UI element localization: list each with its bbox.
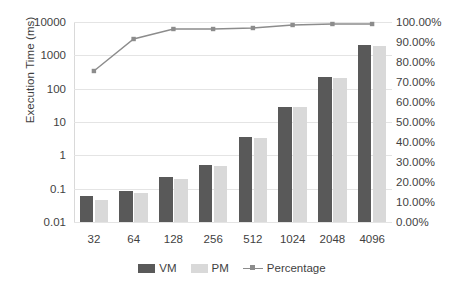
y-axis-right-tick-label: 30.00% [396,156,435,168]
legend-item-vm[interactable]: VM [138,262,176,274]
x-axis-label-64: 64 [114,232,154,246]
legend-swatch-icon [191,264,208,273]
percentage-marker-128 [171,27,175,31]
x-axis-category-labels: 3264128256512102420484096 [74,232,392,248]
percentage-marker-512 [251,26,255,30]
percentage-marker-4096 [370,22,374,26]
percentage-marker-2048 [330,22,334,26]
gridline [74,222,392,223]
plot-area [74,22,392,222]
chart-container: Execution Time (ms) 1000010001001010.10.… [0,0,464,289]
x-axis-label-32: 32 [74,232,114,246]
legend-swatch-icon [138,264,155,273]
y-axis-right-tick-label: 50.00% [396,116,435,128]
y-axis-right-tick-label: 20.00% [396,176,435,188]
percentage-line-series [74,22,392,222]
y-axis-right-tick-label: 40.00% [396,136,435,148]
percentage-line-path [94,24,372,71]
x-axis-label-256: 256 [193,232,233,246]
legend-label: PM [212,262,229,274]
percentage-marker-1024 [290,23,294,27]
legend-item-percentage[interactable]: Percentage [243,262,326,274]
y-axis-left-tick-label: 100 [0,83,66,95]
legend-line-marker-icon [243,264,263,273]
percentage-marker-64 [131,37,135,41]
y-axis-right-tick-label: 80.00% [396,56,435,68]
y-axis-left-tick-label: 10 [0,116,66,128]
y-axis-right-tick-label: 0.00% [396,216,429,228]
y-axis-left-tick-label: 1 [0,149,66,161]
chart-legend: VMPMPercentage [0,258,464,278]
y-axis-left-tick-label: 10000 [0,16,66,28]
y-axis-left-tick-label: 0.1 [0,183,66,195]
x-axis-label-4096: 4096 [352,232,392,246]
legend-label: Percentage [267,262,326,274]
y-axis-right-tick-label: 90.00% [396,36,435,48]
x-axis-label-2048: 2048 [313,232,353,246]
y-axis-right-tick-label: 70.00% [396,76,435,88]
legend-item-pm[interactable]: PM [191,262,229,274]
x-axis-label-1024: 1024 [273,232,313,246]
percentage-marker-32 [92,69,96,73]
x-axis-label-128: 128 [154,232,194,246]
y-axis-left-ticks: 1000010001001010.10.01 [0,0,70,289]
y-axis-right-ticks: 100.00%90.00%80.00%70.00%60.00%50.00%40.… [396,0,464,289]
y-axis-right-tick-label: 10.00% [396,196,435,208]
y-axis-right-tick-label: 60.00% [396,96,435,108]
legend-label: VM [159,262,176,274]
percentage-marker-256 [211,27,215,31]
y-axis-left-tick-label: 1000 [0,49,66,61]
x-axis-label-512: 512 [233,232,273,246]
y-axis-right-tick-label: 100.00% [396,16,441,28]
y-axis-left-tick-label: 0.01 [0,216,66,228]
